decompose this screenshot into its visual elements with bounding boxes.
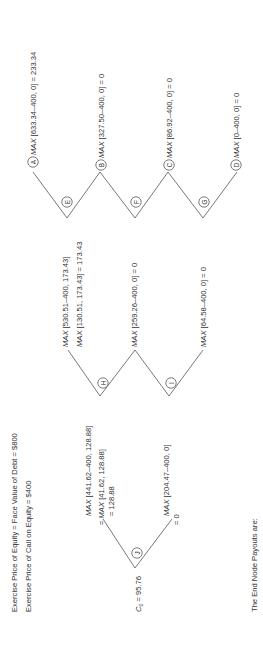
- node-g-value: MAX [64.58–400, 0] = 0: [199, 267, 208, 347]
- node-h: H: [98, 378, 108, 388]
- end-node-a: A MAX [633.34–400, 0] = 233.34: [28, 52, 38, 167]
- end-node-d-label: D: [233, 162, 240, 167]
- node-e: E: [62, 197, 72, 207]
- svg-text:MAX [441.62–400, 128.88]: MAX [441.62–400, 128.88]: [84, 426, 93, 516]
- svg-text:MAX [633.34–400, 0] = 233.34: MAX [633.34–400, 0] = 233.34: [29, 52, 38, 155]
- svg-text:MAX [64.58–400, 0] = 0: MAX [64.58–400, 0] = 0: [199, 267, 208, 347]
- svg-text:= 0: = 0: [172, 514, 181, 525]
- branch-g: [168, 172, 237, 218]
- node-g-label: G: [201, 199, 208, 204]
- node-h-label: H: [100, 380, 107, 385]
- branch-e: [33, 172, 100, 218]
- header-line-1: Exercise Price of Equity = Face Value of…: [10, 433, 19, 612]
- svg-text:MAX [204.47–400, 0]: MAX [204.47–400, 0]: [162, 445, 171, 516]
- binomial-tree-diagram: Exercise Price of Equity = Face Value of…: [0, 0, 263, 662]
- node-f-label: F: [133, 200, 140, 204]
- branch-h: [68, 350, 135, 396]
- svg-text:MAX [259.26–400, 0] = 0: MAX [259.26–400, 0] = 0: [130, 263, 139, 347]
- footer-text: The End Node Payouts are:: [250, 518, 259, 612]
- node-j: J: [132, 548, 142, 558]
- svg-text:= MAX [41.62, 128.88]: = MAX [41.62, 128.88]: [97, 449, 106, 525]
- node-f: F: [131, 197, 141, 207]
- end-node-d: D MAX [0–400, 0] = 0: [231, 93, 241, 170]
- node-i-label: I: [168, 382, 175, 384]
- svg-text:= 128.88: = 128.88: [107, 486, 116, 516]
- svg-text:MAX [130.51, 173.43] = 173.43: MAX [130.51, 173.43] = 173.43: [75, 242, 84, 347]
- end-node-b: B MAX [327.50–400, 0] = 0: [96, 74, 106, 170]
- node-f-value: MAX [259.26–400, 0] = 0: [130, 263, 139, 347]
- branch-j: [103, 519, 172, 568]
- branch-f: [100, 172, 168, 218]
- node-i-value: MAX [204.47–400, 0] = 0: [162, 445, 181, 525]
- end-node-c: C MAX [86.92–400, 0] = 0: [164, 78, 174, 170]
- end-node-c-label: C: [166, 162, 173, 167]
- node-e-value: MAX [530.51–400, 173.43] MAX [130.51, 17…: [61, 242, 84, 347]
- svg-text:MAX [0–400, 0] = 0: MAX [0–400, 0] = 0: [232, 93, 241, 158]
- node-h-value: MAX [441.62–400, 128.88] = MAX [41.62, 1…: [84, 426, 116, 525]
- node-j-label: J: [134, 551, 141, 554]
- end-node-a-label: A: [30, 159, 37, 164]
- branch-i: [135, 350, 203, 396]
- node-e-label: E: [64, 200, 71, 204]
- node-g: G: [199, 197, 209, 207]
- end-node-b-label: B: [98, 163, 105, 167]
- root-value: C0 = 95.76: [134, 576, 144, 612]
- svg-text:MAX [327.50–400, 0] = 0: MAX [327.50–400, 0] = 0: [97, 74, 106, 158]
- header-line-2: Exercise Price of Call on Equity = $400: [24, 481, 33, 612]
- svg-text:MAX [530.51–400, 173.43]: MAX [530.51–400, 173.43]: [61, 257, 70, 347]
- svg-text:MAX [86.92–400, 0] = 0: MAX [86.92–400, 0] = 0: [165, 78, 174, 158]
- tree-lines: [33, 172, 237, 568]
- node-i: I: [166, 378, 176, 388]
